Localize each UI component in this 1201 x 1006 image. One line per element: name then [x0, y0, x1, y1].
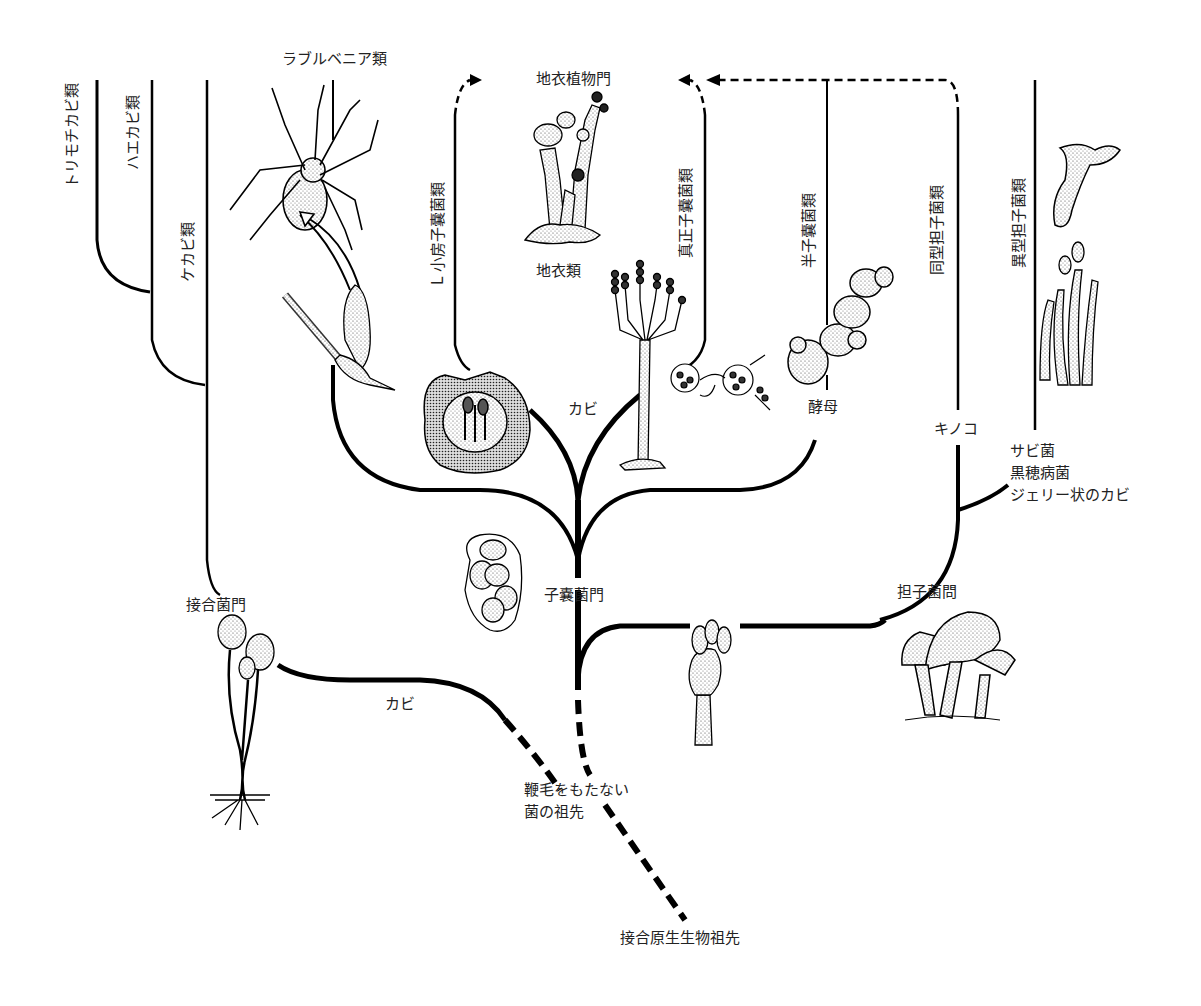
label-true-ascomycetes: 真正子嚢菌類 [678, 168, 694, 258]
arrow-to-lichen-left [470, 74, 482, 86]
label-non-flagellate-ancestor: 鞭毛をもたない 菌の祖先 [524, 779, 629, 823]
label-kinoko: キノコ [934, 420, 978, 438]
branch-basidio-dashed [715, 80, 958, 115]
rhizopus-illustration [210, 615, 274, 830]
yeast-illustration [788, 267, 893, 384]
label-haekabi: ハエカビ類 [125, 95, 141, 170]
label-torimochi: トリモチカビ類 [64, 83, 80, 188]
label-laboulbenia: ラブルベニア類 [282, 50, 387, 68]
label-protist-ancestor: 接合原生生物祖先 [620, 929, 740, 947]
label-rusts-smuts-jelly: サビ菌 黒穂病菌 ジェリー状のカビ [1010, 440, 1130, 506]
branch-basidio-main-right [740, 620, 885, 626]
rust-teliospores-illustration [1040, 242, 1098, 385]
branch-rusts [958, 485, 1008, 510]
branch-kekabi [207, 80, 220, 595]
jelly-fungus-illustration [1054, 144, 1120, 226]
label-zygomycota: 接合菌門 [186, 596, 246, 614]
label-hemiascomycetes: 半子嚢菌類 [801, 193, 817, 268]
label-lichen-phylum: 地衣植物門 [536, 70, 611, 88]
label-basidiomycota: 担子菌問 [897, 583, 957, 601]
mushroom-illustration [902, 612, 1015, 720]
label-heterobasidiomycetes: 異型担子菌類 [1011, 178, 1027, 268]
label-kabi-asco: カビ [568, 400, 598, 418]
label-lichens: 地衣類 [536, 262, 581, 280]
branch-small-chamber-top [455, 80, 470, 115]
branch-true-asco-top [690, 80, 705, 115]
lichen-illustration [525, 92, 608, 244]
branch-yeast [578, 440, 815, 560]
label-kekabi: ケカビ類 [180, 222, 196, 282]
branch-asco-left [530, 410, 578, 500]
basidium-illustration [689, 620, 731, 745]
ascus-hyphae-illustration [671, 355, 770, 410]
perithecium-illustration [424, 372, 530, 473]
ascus-spores-illustration [465, 534, 522, 631]
label-kabi-zygo: カビ [385, 695, 415, 713]
laboulbenia-illustration [285, 285, 395, 390]
label-ascomycota: 子嚢菌門 [544, 586, 604, 604]
arrow-to-lichen-right [678, 74, 690, 86]
label-homobasidiomycetes: 同型担子菌類 [929, 185, 945, 275]
branch-basidio-main [578, 626, 690, 680]
spider-illustration [230, 85, 378, 290]
penicillium-illustration [612, 261, 686, 471]
label-yeast: 酵母 [808, 398, 838, 416]
label-small-chamber-ascomycetes: L 小房子嚢菌類 [430, 182, 446, 285]
branch-central-dashed [578, 700, 590, 775]
arrow-to-lichen-far [706, 74, 720, 86]
branch-small-chamber [455, 115, 470, 370]
